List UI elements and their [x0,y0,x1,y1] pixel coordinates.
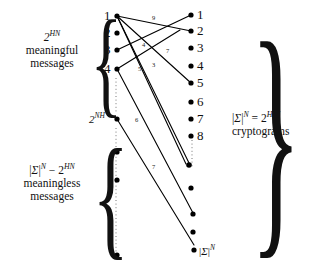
right-dot-5 [188,80,193,85]
edge-label-7-top: 7 [166,48,169,55]
left-number-2: 2 [104,26,111,39]
left-top-description: 2HN meaningful messages [14,30,90,69]
right-number-4: 4 [197,59,204,72]
edge-label-9: 9 [152,15,155,22]
right-dot-7 [188,116,193,121]
edge-label-3: 3 [152,62,155,69]
left-number-4: 4 [104,62,111,75]
left-bottom-description: |Σ|N − 2HN meaningless messages [8,163,96,202]
left-top-line2: meaningful [14,44,90,57]
right-dot-y2 [188,185,193,190]
right-dot-8 [188,133,193,138]
right-number-8: 8 [197,129,204,142]
right-number-7: 7 [197,112,204,125]
right-dot-6 [188,99,193,104]
left-number-3: 3 [104,43,111,56]
right-dot-y3 [190,211,195,216]
right-number-3: 3 [197,41,204,54]
left-bottom-line3: messages [8,190,96,203]
right-number-6: 6 [197,95,204,108]
right-number-2: 2 [197,24,204,37]
left-bottom-line2: meaningless [8,177,96,190]
left-bottom-brace: { [93,128,129,264]
right-dot-3 [188,45,193,50]
edge-l1-r5 [117,16,191,83]
right-dot-y1 [186,162,192,168]
edge-l4-r1 [117,30,180,69]
left-number-1: 1 [104,9,111,22]
right-dot-4 [188,63,193,68]
right-bottom-label: |Σ|N [199,244,215,257]
right-dot-1 [188,12,193,17]
right-brace: } [251,4,301,266]
left-mid-label: 2NH [89,112,105,125]
left-top-line1: 2HN [14,30,90,44]
edge-label-5: 5 [138,66,141,73]
edge-label-4: 4 [142,42,145,49]
diagram-canvas: 2HN meaningful messages |Σ|N − 2HN meani… [0,0,311,269]
edge-label-6: 6 [135,117,138,124]
left-top-line3: messages [14,57,90,70]
right-dot-y4 [190,229,195,234]
right-number-5: 5 [197,76,204,89]
right-number-1: 1 [197,8,204,21]
edge-label-7-low: 7 [152,164,155,171]
left-bottom-line1: |Σ|N − 2HN [8,163,96,177]
right-dot-2 [188,28,193,33]
right-dot-last [191,247,196,252]
right-column-dots [186,12,196,252]
